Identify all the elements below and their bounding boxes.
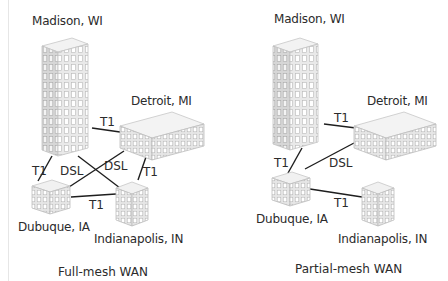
link-label-madison-dubuque: T1: [32, 164, 47, 178]
site-label-detroit: Detroit, MI: [131, 94, 192, 108]
link-label-detroit-indianapolis: T1: [143, 165, 158, 179]
detroit-building-icon: [120, 112, 204, 160]
link-label-dubuque-indianapolis: T1: [89, 198, 104, 212]
link-label-madison-dubuque: T1: [274, 156, 289, 170]
detroit-building-icon: [354, 112, 436, 160]
link-label-dsl-right: DSL: [104, 159, 128, 173]
link-label-detroit-dubuque: DSL: [329, 156, 353, 170]
indianapolis-building-icon: [362, 182, 394, 226]
madison-building-icon: [42, 38, 88, 156]
dubuque-building-icon: [32, 180, 70, 214]
site-label-detroit: Detroit, MI: [367, 94, 428, 108]
site-label-madison: Madison, WI: [274, 12, 345, 26]
diagram-caption: Partial-mesh WAN: [295, 262, 402, 276]
link-label-madison-detroit: T1: [100, 115, 115, 129]
site-label-dubuque: Dubuque, IA: [256, 212, 328, 226]
diagram-caption: Full-mesh WAN: [58, 265, 148, 279]
site-label-dubuque: Dubuque, IA: [18, 220, 90, 234]
link-label-dsl-left: DSL: [60, 164, 84, 178]
madison-building-icon: [273, 38, 318, 150]
site-label-madison: Madison, WI: [32, 14, 103, 28]
link-label-madison-detroit: T1: [334, 111, 349, 125]
site-label-indianapolis: Indianapolis, IN: [338, 232, 427, 246]
dubuque-building-icon: [272, 172, 310, 206]
site-label-indianapolis: Indianapolis, IN: [94, 232, 183, 246]
indianapolis-building-icon: [116, 182, 148, 226]
link-label-dubuque-indianapolis: T1: [334, 196, 349, 210]
